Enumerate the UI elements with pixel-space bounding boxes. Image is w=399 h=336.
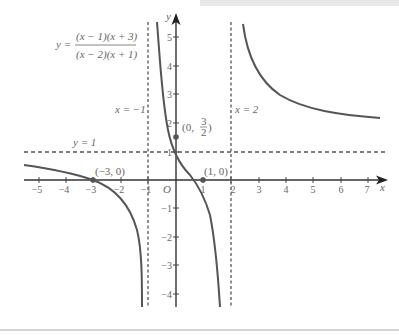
svg-text:−4: −4 [59, 184, 70, 195]
svg-text:7: 7 [365, 184, 370, 195]
svg-text:−2: −2 [161, 232, 172, 243]
curve-right-branch [243, 24, 380, 118]
svg-text:5: 5 [311, 184, 316, 195]
svg-text:−3: −3 [86, 184, 97, 195]
svg-text:2: 2 [231, 184, 236, 195]
svg-text:3: 3 [257, 184, 262, 195]
svg-text:4: 4 [167, 61, 172, 72]
label-point-1-0: (1, 0) [204, 165, 228, 178]
equation-denominator: (x − 2)(x + 1) [76, 48, 138, 61]
point-1-0 [200, 177, 206, 183]
point-minus3-0 [90, 177, 96, 183]
label-point-0-prefix: (0, [182, 121, 194, 134]
label-y-1: y = 1 [72, 136, 96, 148]
x-axis-label: x [379, 181, 385, 193]
svg-text:−4: −4 [161, 289, 172, 300]
label-point-0-den: 2 [201, 126, 207, 138]
svg-text:5: 5 [167, 32, 172, 43]
equation-lhs: y = [55, 38, 71, 50]
label-point-minus3-0: (−3, 0) [95, 165, 125, 178]
y-axis-label: y [165, 10, 171, 22]
graph: −5−4 −3−2 −11 23 45 67 54 32 1−1 −2−3 −4… [0, 0, 399, 336]
point-0-three-halves [173, 134, 179, 140]
svg-text:−3: −3 [161, 260, 172, 271]
svg-text:4: 4 [284, 184, 289, 195]
svg-text:6: 6 [339, 184, 344, 195]
origin-label: O [163, 183, 171, 195]
svg-text:3: 3 [167, 89, 172, 100]
svg-text:−1: −1 [161, 203, 172, 214]
bottom-divider [0, 329, 399, 331]
svg-text:−1: −1 [141, 184, 152, 195]
label-x-2: x = 2 [234, 103, 259, 115]
svg-text:1: 1 [167, 147, 172, 158]
label-point-0-suffix: ) [208, 121, 212, 134]
svg-text:−5: −5 [32, 184, 43, 195]
y-tick-labels: 54 32 1−1 −2−3 −4 [161, 32, 172, 300]
label-x-minus-1: x = −1 [114, 103, 146, 115]
equation-numerator: (x − 1)(x + 3) [76, 30, 138, 43]
